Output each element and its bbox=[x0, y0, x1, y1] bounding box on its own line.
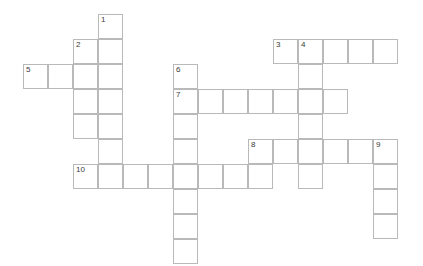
crossword-cell[interactable]: 8 bbox=[248, 139, 273, 164]
crossword-cell[interactable] bbox=[298, 64, 323, 89]
crossword-cell[interactable] bbox=[373, 189, 398, 214]
crossword-cell[interactable] bbox=[198, 89, 223, 114]
crossword-cell[interactable] bbox=[98, 139, 123, 164]
crossword-cell[interactable] bbox=[98, 64, 123, 89]
cell-number-label: 7 bbox=[176, 90, 180, 100]
crossword-cell[interactable] bbox=[298, 114, 323, 139]
crossword-cell[interactable] bbox=[198, 164, 223, 189]
cell-number-label: 5 bbox=[26, 65, 30, 75]
crossword-cell[interactable] bbox=[98, 39, 123, 64]
crossword-cell[interactable] bbox=[98, 164, 123, 189]
crossword-cell[interactable] bbox=[173, 114, 198, 139]
crossword-cell[interactable] bbox=[73, 89, 98, 114]
cell-number-label: 4 bbox=[301, 40, 305, 50]
cell-number-label: 6 bbox=[176, 65, 180, 75]
crossword-cell[interactable] bbox=[123, 164, 148, 189]
crossword-cell[interactable]: 4 bbox=[298, 39, 323, 64]
crossword-cell[interactable]: 3 bbox=[273, 39, 298, 64]
crossword-cell[interactable]: 7 bbox=[173, 89, 198, 114]
cell-number-label: 10 bbox=[76, 165, 85, 175]
crossword-cell[interactable] bbox=[48, 64, 73, 89]
crossword-cell[interactable] bbox=[223, 164, 248, 189]
crossword-cell[interactable] bbox=[298, 164, 323, 189]
crossword-cell[interactable] bbox=[323, 39, 348, 64]
crossword-cell[interactable]: 2 bbox=[73, 39, 98, 64]
crossword-cell[interactable] bbox=[373, 164, 398, 189]
crossword-cell[interactable] bbox=[173, 139, 198, 164]
crossword-cell[interactable] bbox=[298, 139, 323, 164]
crossword-cell[interactable] bbox=[323, 89, 348, 114]
cell-number-label: 8 bbox=[251, 140, 255, 150]
cell-number-label: 1 bbox=[101, 15, 105, 25]
crossword-cell[interactable] bbox=[173, 214, 198, 239]
crossword-cell[interactable]: 5 bbox=[23, 64, 48, 89]
crossword-cell[interactable] bbox=[148, 164, 173, 189]
cell-number-label: 2 bbox=[76, 40, 80, 50]
crossword-cell[interactable] bbox=[373, 214, 398, 239]
crossword-cell[interactable] bbox=[173, 239, 198, 264]
crossword-cell[interactable] bbox=[348, 39, 373, 64]
crossword-cell[interactable] bbox=[348, 139, 373, 164]
crossword-cell[interactable]: 10 bbox=[73, 164, 98, 189]
crossword-cell[interactable]: 6 bbox=[173, 64, 198, 89]
crossword-cell[interactable] bbox=[273, 139, 298, 164]
crossword-cell[interactable] bbox=[73, 64, 98, 89]
crossword-cell[interactable] bbox=[223, 89, 248, 114]
crossword-cell[interactable] bbox=[248, 89, 273, 114]
crossword-cell[interactable] bbox=[298, 89, 323, 114]
crossword-cell[interactable]: 9 bbox=[373, 139, 398, 164]
crossword-cell[interactable]: 1 bbox=[98, 14, 123, 39]
crossword-cell[interactable] bbox=[323, 139, 348, 164]
crossword-cell[interactable] bbox=[173, 189, 198, 214]
crossword-cell[interactable] bbox=[173, 164, 198, 189]
crossword-cell[interactable] bbox=[248, 164, 273, 189]
crossword-grid[interactable]: 12345678910 bbox=[0, 0, 423, 266]
cell-number-label: 3 bbox=[276, 40, 280, 50]
crossword-cell[interactable] bbox=[73, 114, 98, 139]
crossword-cell[interactable] bbox=[273, 89, 298, 114]
crossword-cell[interactable] bbox=[373, 39, 398, 64]
crossword-cell[interactable] bbox=[98, 89, 123, 114]
cell-number-label: 9 bbox=[376, 140, 380, 150]
crossword-cell[interactable] bbox=[98, 114, 123, 139]
